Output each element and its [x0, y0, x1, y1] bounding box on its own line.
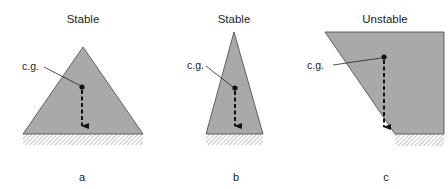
- ground-hatching: [206, 134, 263, 145]
- cg-label: c.g.: [22, 60, 39, 72]
- cg-point: [232, 85, 237, 90]
- cg-label: c.g.: [307, 59, 324, 71]
- stability-diagram: Stable c.g. a Stable c.g. b Unstable c.g…: [0, 0, 448, 189]
- panel-c: Unstable c.g. c: [307, 13, 444, 183]
- panel-c-title: Unstable: [362, 13, 407, 25]
- panel-a: Stable c.g. a: [22, 13, 143, 183]
- panel-c-caption: c: [383, 171, 389, 183]
- cg-label: c.g.: [187, 59, 204, 71]
- ground-hatching: [395, 134, 444, 146]
- cg-point: [79, 84, 84, 89]
- panel-b-caption: b: [233, 171, 239, 183]
- panel-b: Stable c.g. b: [187, 13, 263, 183]
- cg-point: [381, 54, 386, 59]
- panel-a-caption: a: [79, 171, 86, 183]
- panel-a-title: Stable: [67, 13, 100, 25]
- panel-b-title: Stable: [218, 13, 251, 25]
- ground-hatching: [23, 134, 143, 145]
